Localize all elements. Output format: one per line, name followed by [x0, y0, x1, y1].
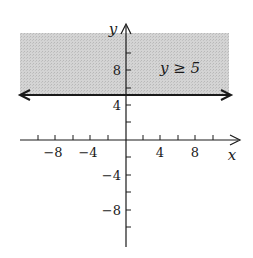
x-tick-label: 8: [191, 145, 199, 160]
x-axis-label: x: [228, 146, 237, 164]
y-tick-label: −8: [102, 203, 121, 218]
y-tick-label: 8: [113, 63, 121, 78]
x-tick-label: −8: [43, 145, 62, 160]
x-tick-label: −4: [78, 145, 97, 160]
y-axis-label: y: [108, 20, 118, 38]
inequality-label: y ≥ 5: [159, 59, 200, 77]
x-tick-label: 4: [156, 145, 164, 160]
y-tick-label: −4: [102, 168, 121, 183]
y-tick-label: 4: [113, 98, 121, 113]
inequality-graph: −8 −4 4 8 x 8 4 −4 −8 y y ≥ 5: [0, 0, 253, 258]
x-axis: −8 −4 4 8 x: [20, 135, 240, 164]
